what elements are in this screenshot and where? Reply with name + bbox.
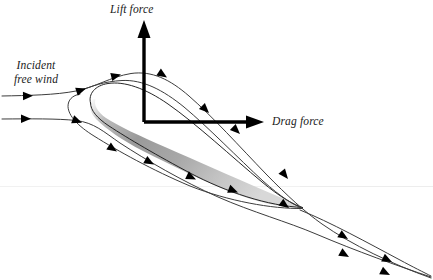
arrowhead xyxy=(156,69,169,81)
streamline-lower-inner xyxy=(68,94,303,209)
incident-wind-line-2: free wind xyxy=(14,72,58,86)
lift-force-arrowhead xyxy=(138,20,151,38)
arrowhead xyxy=(75,85,87,96)
arrowhead xyxy=(278,169,291,182)
lift-force-label: Lift force xyxy=(110,2,154,16)
incident-free-wind-label: Incident free wind xyxy=(14,58,58,86)
arrowhead xyxy=(199,103,212,116)
drag-force-arrowhead xyxy=(246,116,264,129)
arrowhead xyxy=(379,267,392,279)
incident-wind-line-1: Incident xyxy=(14,58,58,72)
airfoil-diagram-svg xyxy=(0,0,433,280)
force-axes xyxy=(138,20,265,129)
drag-force-label: Drag force xyxy=(272,114,324,128)
arrowhead xyxy=(143,156,156,168)
figure-root: Lift force Drag force Incident free wind xyxy=(0,0,433,280)
streamline-lower-outer-tail xyxy=(300,210,431,276)
arrowhead xyxy=(230,124,243,137)
arrowhead xyxy=(338,248,351,260)
arrowhead xyxy=(23,92,33,101)
airfoil-body xyxy=(90,99,302,208)
arrowhead xyxy=(21,115,31,123)
